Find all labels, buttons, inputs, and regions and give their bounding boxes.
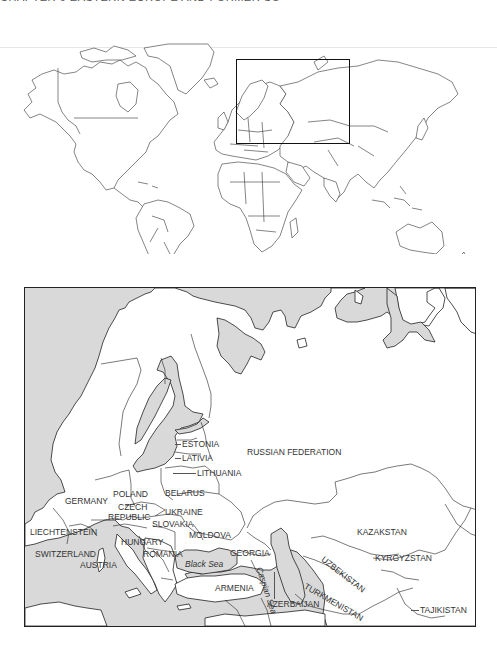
crete [177,604,191,610]
north-africa [25,602,107,626]
leader-lithuania [173,473,196,474]
label-kyrgyzstan: KYRGYZSTAN [375,554,432,563]
label-estonia: ESTONIA [182,440,219,449]
label-armenia: ARMENIA [215,584,254,593]
region-outline [25,288,476,627]
label-czech-1: CZECH [118,503,147,512]
madagascar [290,218,298,238]
label-kazakhstan: KAZAKSTAN [357,528,407,537]
new-zealand [458,252,466,254]
sicily [125,588,141,598]
chapter-title: CHAPTER 6 EASTERN EUROPE AND FORMER SOVI… [0,0,280,3]
arctic-island [355,290,363,304]
leader-tajikistan [411,610,419,611]
label-moldova: MOLDOVA [189,531,231,540]
leader-estonia [175,444,181,445]
kolguev-island [297,338,307,348]
iceland [204,78,218,88]
label-liechtenstein: LIECHTENSTEIN [30,528,97,537]
north-africa-east [205,610,325,626]
europe-inset-box [236,59,350,144]
label-lithuania: LITHUANIA [197,469,241,478]
label-black-sea: Black Sea [185,560,223,569]
australia [396,222,444,254]
label-hungary: HUNGARY [121,538,163,547]
label-slovakia: SLOVAKIA [152,520,193,529]
eastern-europe-region-map: ESTONIA LATIVIA LITHUANIA RUSSIAN FEDERA… [24,287,476,627]
page-header: CHAPTER 6 EASTERN EUROPE AND FORMER SOVI… [0,0,280,4]
leader-latvia [175,458,181,459]
caribbean [138,182,158,188]
label-latvia: LATIVIA [182,454,213,463]
balkans [143,538,177,602]
label-austria: AUSTRIA [80,561,117,570]
leader-azerbaijan [274,572,275,599]
label-belarus: BELARUS [165,489,205,498]
label-romania: ROMANIA [143,550,183,559]
arctic-islands [80,46,136,62]
label-ukraine: UKRAINE [165,508,203,517]
central-america [114,188,144,208]
world-locator-map [18,22,478,254]
label-czech-2: REPUBLIC [108,513,151,522]
label-germany: GERMANY [65,497,108,506]
southeast-asia-islands [372,186,422,210]
label-poland: POLAND [113,490,148,499]
north-america [24,60,178,190]
label-tajikistan: TAJIKISTAN [420,606,467,615]
label-switzerland: SWITZERLAND [35,550,96,559]
label-georgia: GEORGIA [230,549,270,558]
label-russian-federation: RUSSIAN FEDERATION [247,448,341,457]
